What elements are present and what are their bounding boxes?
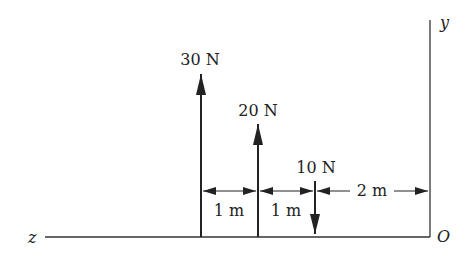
dimension-label-3: 2 m: [357, 181, 387, 200]
force-10n: 10 N: [296, 158, 335, 234]
y-axis-label: y: [439, 13, 450, 32]
arrowhead-right-icon: [415, 187, 428, 195]
arrowhead-left-icon: [260, 187, 273, 195]
arrowhead-down-icon: [310, 214, 320, 234]
force-20n-label: 20 N: [238, 101, 277, 120]
arrowhead-right-icon: [300, 187, 313, 195]
origin-label: O: [437, 227, 450, 246]
z-axis-label: z: [27, 228, 37, 247]
arrowhead-up-icon: [196, 74, 206, 95]
force-diagram: y z O 30 N 20 N 10 N 1 m 1 m 2: [0, 0, 469, 264]
dimension-label-1: 1 m: [214, 201, 244, 220]
arrowhead-right-icon: [243, 187, 256, 195]
arrowhead-up-icon: [253, 124, 263, 145]
dimension-label-2: 1 m: [271, 201, 301, 220]
arrowhead-left-icon: [317, 187, 330, 195]
force-30n-label: 30 N: [180, 50, 219, 69]
force-10n-label: 10 N: [296, 158, 335, 177]
arrowhead-left-icon: [203, 187, 216, 195]
